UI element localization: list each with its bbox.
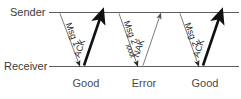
receiver-axis-label: Receiver [4, 60, 48, 72]
exchange-2-outcome-label: Error [132, 77, 157, 89]
diagram-canvas: Sender Receiver Msg 1 ACK Good Msg 2 xxx… [0, 0, 241, 99]
exchange-3-ack-arrow [203, 16, 220, 66]
protocol-timing-diagram: Sender Receiver Msg 1 ACK Good Msg 2 xxx… [0, 0, 241, 99]
exchange-1-group: Msg 1 ACK Good [60, 14, 101, 90]
sender-axis-label: Sender [10, 6, 46, 18]
exchange-3-group: Msg 2 ACK Good [180, 14, 220, 90]
exchange-1-ack-arrow [84, 16, 101, 66]
exchange-2-group: Msg 2 xxxx NAK Error [119, 14, 160, 90]
exchange-1-outcome-label: Good [73, 77, 100, 89]
exchange-2-nak-arrow [143, 16, 160, 66]
exchange-3-outcome-label: Good [192, 77, 219, 89]
